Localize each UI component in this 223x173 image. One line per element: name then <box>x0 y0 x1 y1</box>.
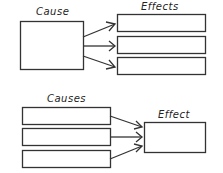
arrow-cause-2-to-effect <box>110 132 142 142</box>
cause-box-1 <box>23 108 111 125</box>
arrow-cause-to-effect-2 <box>83 41 115 51</box>
cause-box-3 <box>23 151 111 168</box>
effect-label: Effect <box>158 109 190 120</box>
arrow-cause-1-to-effect <box>110 116 142 129</box>
arrow-cause-3-to-effect <box>110 144 142 159</box>
effects-label: Effects <box>141 1 179 12</box>
effect-box-1 <box>118 15 206 32</box>
effect-box <box>145 123 206 153</box>
cause-box-2 <box>23 129 111 146</box>
effect-box-2 <box>118 37 206 54</box>
arrow-cause-to-effect-3 <box>83 56 115 69</box>
cause-box <box>21 22 84 70</box>
effect-box-3 <box>118 58 206 75</box>
diagram-svg <box>0 0 223 173</box>
cause-label: Cause <box>36 6 69 17</box>
causes-label: Causes <box>47 93 86 104</box>
arrow-cause-to-effect-1 <box>83 22 115 37</box>
